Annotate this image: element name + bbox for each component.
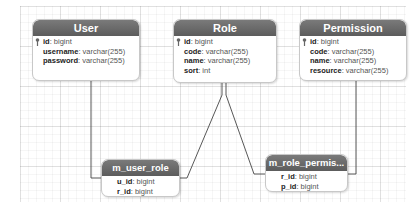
field-row[interactable]: resource: varchar(255) bbox=[310, 66, 406, 76]
field-row[interactable]: r_id: bigint bbox=[117, 187, 179, 197]
entity-title: m_user_role bbox=[102, 160, 179, 176]
entity-user[interactable]: User id: bigint username: varchar(255) p… bbox=[32, 19, 140, 81]
field-row[interactable]: id: bigint bbox=[184, 37, 276, 47]
entity-permission[interactable]: Permission id: bigint code: varchar(255)… bbox=[299, 19, 407, 81]
entity-m-role-permission[interactable]: m_role_permis... r_id: bigint p_id: bigi… bbox=[265, 154, 348, 192]
entity-title: User bbox=[33, 20, 139, 36]
field-row[interactable]: sort: int bbox=[184, 66, 276, 76]
key-icon bbox=[35, 38, 40, 46]
key-icon bbox=[302, 38, 307, 46]
entity-title: m_role_permis... bbox=[266, 155, 347, 171]
key-icon bbox=[176, 38, 181, 46]
field-row[interactable]: name: varchar(255) bbox=[184, 56, 276, 66]
entity-title: Permission bbox=[300, 20, 406, 36]
field-row[interactable]: code: varchar(255) bbox=[310, 47, 406, 57]
field-row[interactable]: id: bigint bbox=[310, 37, 406, 47]
entity-title: Role bbox=[174, 20, 276, 36]
field-row[interactable]: p_id: bigint bbox=[281, 182, 347, 192]
field-row[interactable]: id: bigint bbox=[43, 37, 139, 47]
field-row[interactable]: u_id: bigint bbox=[117, 177, 179, 187]
field-row[interactable]: name: varchar(255) bbox=[310, 56, 406, 66]
field-row[interactable]: r_id: bigint bbox=[281, 172, 347, 182]
field-row[interactable]: username: varchar(255) bbox=[43, 47, 139, 57]
field-row[interactable]: code: varchar(255) bbox=[184, 47, 276, 57]
field-row[interactable]: password: varchar(255) bbox=[43, 56, 139, 66]
entity-role[interactable]: Role id: bigint code: varchar(255) name:… bbox=[173, 19, 277, 83]
entity-m-user-role[interactable]: m_user_role u_id: bigint r_id: bigint bbox=[101, 159, 180, 197]
